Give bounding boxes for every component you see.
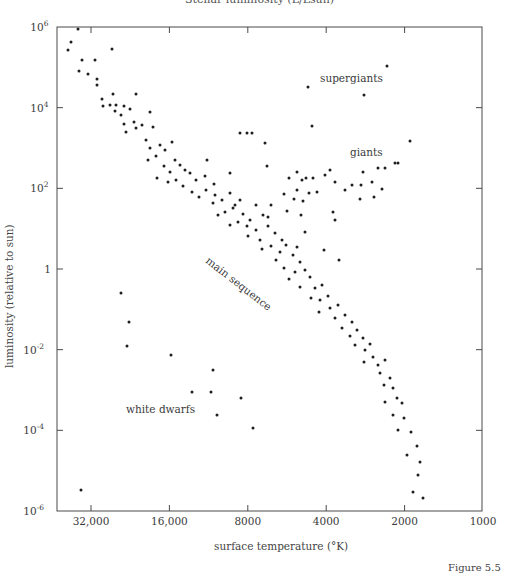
star-point: [344, 314, 347, 317]
x-tick-label: 16,000: [151, 515, 188, 527]
star-point: [377, 167, 380, 170]
x-axis-ticks: 32,00016,0008000400020001000: [73, 27, 497, 527]
star-point: [329, 307, 332, 310]
star-point: [123, 105, 126, 108]
star-point: [149, 111, 152, 114]
star-point: [252, 427, 255, 430]
star-point: [123, 123, 126, 126]
star-point: [81, 59, 84, 62]
star-point: [163, 165, 166, 168]
y-tick-label: 10-4: [23, 422, 44, 436]
star-point: [304, 231, 307, 234]
star-point: [288, 278, 291, 281]
star-point: [396, 397, 399, 400]
star-point: [383, 384, 386, 387]
star-point: [135, 93, 138, 96]
y-tick-label: 102: [30, 180, 48, 194]
y-tick-label: 104: [30, 100, 48, 114]
star-point: [112, 93, 115, 96]
star-point: [205, 189, 208, 192]
star-point: [229, 224, 232, 227]
star-point: [275, 259, 278, 262]
star-point: [255, 204, 258, 207]
star-point: [237, 221, 240, 224]
star-point: [70, 41, 73, 44]
star-point: [319, 299, 322, 302]
star-point: [406, 454, 409, 457]
star-point: [191, 391, 194, 394]
star-point: [270, 204, 273, 207]
star-point: [296, 246, 299, 249]
star-point: [133, 121, 136, 124]
star-point: [311, 125, 314, 128]
star-point: [373, 196, 376, 199]
star-point: [293, 198, 296, 201]
star-point: [175, 179, 178, 182]
star-point: [96, 84, 99, 87]
star-point: [242, 213, 245, 216]
star-point: [78, 70, 81, 73]
star-point: [128, 321, 131, 324]
star-point: [125, 131, 128, 134]
star-point: [80, 489, 83, 492]
star-point: [77, 28, 80, 31]
star-point: [283, 267, 286, 270]
star-point: [266, 165, 269, 168]
y-tick-label: 106: [30, 19, 48, 33]
star-point: [351, 321, 354, 324]
star-point: [362, 171, 365, 174]
star-point: [135, 127, 138, 130]
star-point: [182, 185, 185, 188]
star-point: [286, 210, 289, 213]
star-point: [232, 207, 235, 210]
star-point: [379, 372, 382, 375]
y-tick-label: 10-2: [23, 342, 44, 356]
x-tick-label: 32,000: [73, 515, 110, 527]
star-point: [363, 361, 366, 364]
star-point: [247, 235, 250, 238]
star-point: [356, 329, 359, 332]
star-point: [96, 78, 99, 81]
star-point: [344, 189, 347, 192]
star-point: [394, 162, 397, 165]
star-point: [141, 124, 144, 127]
star-point: [195, 179, 198, 182]
star-point: [217, 214, 220, 217]
star-point: [145, 139, 148, 142]
star-point: [264, 142, 267, 145]
star-point: [170, 354, 173, 357]
star-point: [274, 232, 277, 235]
star-point: [189, 172, 192, 175]
star-point: [301, 179, 304, 182]
star-point: [371, 181, 374, 184]
star-point: [210, 391, 213, 394]
star-point: [312, 177, 315, 180]
star-point: [299, 286, 302, 289]
star-point: [109, 104, 112, 107]
star-point: [283, 193, 286, 196]
star-point: [249, 219, 252, 222]
star-point: [323, 249, 326, 252]
star-point: [152, 126, 155, 129]
star-point: [409, 140, 412, 143]
star-point: [159, 144, 162, 147]
star-point: [351, 184, 354, 187]
star-point: [384, 401, 387, 404]
star-point: [213, 183, 216, 186]
star-point: [234, 204, 237, 207]
star-point: [267, 225, 270, 228]
star-point: [191, 191, 194, 194]
star-point: [167, 181, 170, 184]
star-point: [392, 387, 395, 390]
star-point: [309, 276, 312, 279]
cut-header-text: Stellar luminosity (L/Lsun): [185, 0, 334, 6]
data-points: [67, 28, 425, 500]
star-point: [149, 147, 152, 150]
star-point: [294, 271, 297, 274]
star-point: [338, 259, 341, 262]
star-point: [349, 335, 352, 338]
star-point: [129, 108, 132, 111]
star-point: [381, 188, 384, 191]
y-tick-label: 10-6: [23, 503, 44, 517]
star-point: [147, 159, 150, 162]
